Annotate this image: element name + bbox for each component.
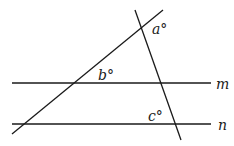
line-n-label: n (218, 117, 227, 133)
angle-c-label: c° (148, 108, 163, 124)
transversal-diagonal (12, 10, 163, 134)
angle-b-label: b° (98, 67, 114, 83)
line-m-label: m (216, 76, 229, 92)
angle-a-label: a° (152, 21, 167, 37)
geometry-diagram: a° b° c° m n (0, 0, 234, 146)
